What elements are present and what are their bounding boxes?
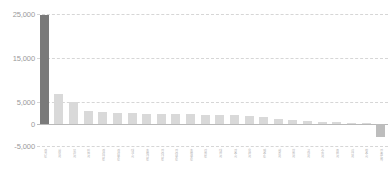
y-axis-tick-label: 15,000: [0, 54, 35, 63]
bar: [259, 117, 268, 124]
x-axis-tick-label: 전라북도: [174, 149, 178, 161]
bar: [245, 116, 254, 124]
bar: [332, 122, 341, 124]
x-axis-tick-label: 수원시: [320, 149, 324, 158]
x-axis-tick-label: 용인시: [335, 149, 339, 158]
y-axis-tick-label: 0: [0, 120, 35, 129]
bar-chart: 25,00015,0005,0000-5,000 경기도서울시부산시인천시경상남…: [0, 0, 390, 190]
bar: [142, 114, 151, 124]
x-axis-tick-label: 청주시: [364, 149, 368, 158]
bar: [318, 122, 327, 124]
y-axis-tick-label: -5,000: [0, 142, 35, 151]
bars-layer: [37, 14, 388, 146]
x-axis-tick-label: 제주도: [262, 149, 266, 158]
y-axis-tick-label: 5,000: [0, 98, 35, 107]
x-axis-tick-label: 경기도: [43, 149, 47, 158]
bar: [274, 119, 283, 124]
x-axis-tick-label: 광주시: [233, 149, 237, 158]
x-axis-tick-label: 성남시: [350, 149, 354, 158]
bar: [98, 112, 107, 124]
x-axis-tick-label: 전출입차: [379, 149, 383, 161]
x-axis-tick-label: 경상남도: [101, 149, 105, 161]
bar: [171, 114, 180, 124]
y-axis-tick-label: 25,000: [0, 10, 35, 19]
bar: [69, 102, 78, 124]
x-axis-tick-label: 세종시: [277, 149, 281, 158]
x-axis-tick-label: 서울시: [57, 149, 61, 158]
bar: [376, 124, 385, 137]
x-axis-tick-label: 충청남도: [145, 149, 149, 161]
x-axis-tick-label: 부산시: [72, 149, 76, 158]
x-axis-tick-label: 경상북도: [116, 149, 120, 161]
x-axis-tick-label: 대구시: [130, 149, 134, 158]
x-axis-tick-label: 창원시: [291, 149, 295, 158]
x-axis-tick-label: 인천시: [86, 149, 90, 158]
bar: [54, 94, 63, 124]
bar: [230, 115, 239, 124]
bar: [186, 114, 195, 124]
bar: [201, 115, 210, 124]
x-axis-tick-label: 충청북도: [189, 149, 193, 161]
x-axis-tick-label: 대전시: [218, 149, 222, 158]
gridline: [37, 146, 388, 147]
x-axis-tick-label: 전라남도: [160, 149, 164, 161]
x-axis-tick-label: 울산시: [247, 149, 251, 158]
bar: [215, 115, 224, 124]
bar: [84, 111, 93, 124]
bar: [362, 123, 371, 124]
x-axis-tick-label: 고양시: [306, 149, 310, 158]
bar: [157, 114, 166, 124]
bar: [303, 121, 312, 124]
plot-area: 25,00015,0005,0000-5,000: [37, 14, 388, 146]
bar: [113, 113, 122, 124]
x-axis-labels: 경기도서울시부산시인천시경상남도경상북도대구시충청남도전라남도전라북도충청북도강…: [37, 149, 388, 190]
x-axis-tick-label: 강원도: [203, 149, 207, 158]
bar: [288, 120, 297, 124]
bar: [347, 123, 356, 124]
bar: [40, 15, 49, 124]
bar: [128, 113, 137, 124]
